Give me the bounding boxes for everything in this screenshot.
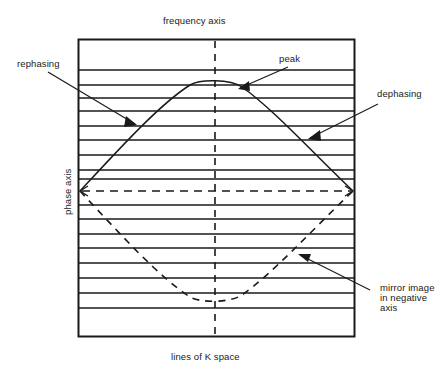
peak-annotation: peak <box>279 54 300 65</box>
lines-of-k-space-label: lines of K space <box>171 352 240 363</box>
frequency-axis-label: frequency axis <box>163 16 226 27</box>
figure-canvas: frequency axis lines of K space phase ax… <box>0 0 441 374</box>
mirror-image-annotation-line3: axis <box>380 303 397 314</box>
mirror-arrowhead <box>298 254 311 262</box>
k-space-lines <box>79 70 354 308</box>
mirror-image-curve <box>80 191 353 301</box>
mirror-leader <box>300 255 370 290</box>
plot-border <box>79 40 355 337</box>
signal-envelope-curve <box>80 81 353 191</box>
phase-axis-label: phase axis <box>62 169 73 215</box>
dephasing-annotation: dephasing <box>377 89 422 100</box>
rephasing-annotation: rephasing <box>17 59 60 70</box>
